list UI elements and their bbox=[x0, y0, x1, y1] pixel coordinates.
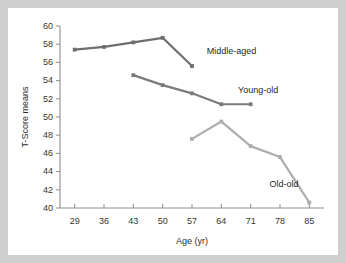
x-tick-label: 64 bbox=[216, 216, 226, 226]
y-tick-label: 52 bbox=[43, 94, 53, 104]
y-tick-label: 46 bbox=[43, 148, 53, 158]
x-tick-label: 78 bbox=[275, 216, 285, 226]
series-annotations: Middle-agedYoung-oldOld-old bbox=[207, 46, 299, 189]
x-axis-title: Age (yr) bbox=[176, 236, 208, 246]
y-tick-label: 60 bbox=[43, 21, 53, 31]
line-chart-canvas: 4042444648505254565860293643505764717885… bbox=[8, 8, 338, 255]
y-tick-label: 44 bbox=[43, 166, 53, 176]
y-tick-label: 42 bbox=[43, 185, 53, 195]
series-label-old-old: Old-old bbox=[270, 179, 299, 189]
data-point-marker bbox=[161, 83, 165, 87]
data-point-marker bbox=[161, 36, 165, 40]
data-point-marker bbox=[219, 120, 223, 124]
x-tick-label: 43 bbox=[128, 216, 138, 226]
data-point-marker bbox=[131, 73, 135, 77]
axes: 4042444648505254565860293643505764717885 bbox=[43, 21, 324, 226]
series-young-old bbox=[131, 73, 252, 106]
y-tick-label: 50 bbox=[43, 112, 53, 122]
data-point-marker bbox=[73, 48, 77, 52]
data-point-marker bbox=[307, 201, 311, 205]
data-point-marker bbox=[249, 144, 253, 148]
data-point-marker bbox=[219, 102, 223, 106]
data-point-marker bbox=[278, 155, 282, 159]
series-line bbox=[192, 122, 309, 203]
data-point-marker bbox=[190, 137, 194, 141]
y-tick-label: 40 bbox=[43, 203, 53, 213]
x-tick-label: 57 bbox=[187, 216, 197, 226]
y-tick-label: 56 bbox=[43, 57, 53, 67]
series-old-old bbox=[190, 120, 311, 205]
data-point-marker bbox=[131, 40, 135, 44]
x-tick-label: 36 bbox=[99, 216, 109, 226]
x-tick-label: 29 bbox=[70, 216, 80, 226]
series-line bbox=[133, 75, 250, 104]
y-tick-label: 54 bbox=[43, 75, 53, 85]
series-label-middle-aged: Middle-aged bbox=[207, 46, 257, 56]
x-tick-label: 71 bbox=[246, 216, 256, 226]
data-point-marker bbox=[249, 102, 253, 106]
data-point-marker bbox=[190, 91, 194, 95]
data-point-marker bbox=[190, 64, 194, 68]
y-tick-label: 58 bbox=[43, 39, 53, 49]
data-point-marker bbox=[102, 45, 106, 49]
series-middle-aged bbox=[73, 36, 194, 68]
series-label-young-old: Young-old bbox=[238, 85, 278, 95]
x-tick-label: 50 bbox=[158, 216, 168, 226]
chart-figure: 4042444648505254565860293643505764717885… bbox=[8, 8, 338, 255]
y-tick-label: 48 bbox=[43, 130, 53, 140]
x-tick-label: 85 bbox=[304, 216, 314, 226]
y-axis-title: T-Score means bbox=[20, 86, 30, 148]
